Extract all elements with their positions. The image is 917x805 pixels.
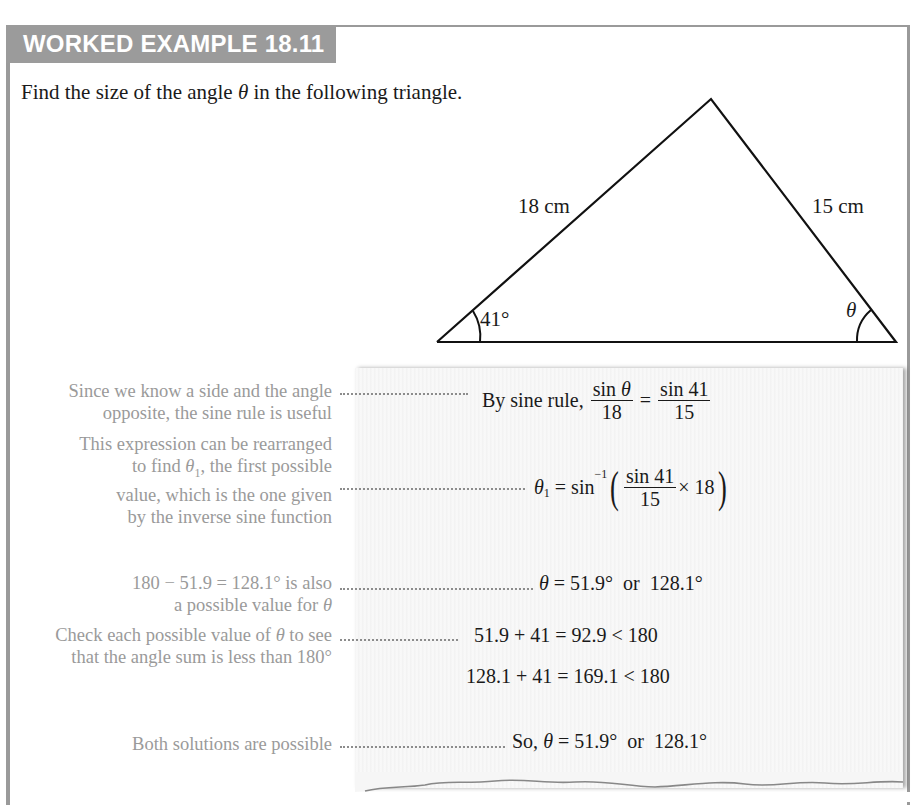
step5-note: Both solutions are possible [132, 733, 332, 755]
step3-leader [340, 586, 533, 590]
step3-note: 180 − 51.9 = 128.1° is also a possible v… [132, 572, 332, 616]
angle-right-label: θ [846, 298, 856, 323]
step5-math: So, θ = 51.9° or 128.1° [512, 730, 707, 753]
side-left-label: 18 cm [518, 194, 570, 219]
header-title: WORKED EXAMPLE 18.11 [23, 30, 324, 58]
step2-note: This expression can be rearranged to fin… [79, 433, 332, 528]
step2-leader [340, 486, 525, 490]
step2-math: θ1 = sin−1(sin 4115× 18) [534, 462, 729, 513]
step1-note: Since we know a side and the angle oppos… [68, 380, 332, 424]
step4-leader [340, 637, 458, 641]
step5-leader [340, 744, 505, 748]
step4-math-line2: 128.1 + 41 = 169.1 < 180 [466, 665, 670, 688]
step3-math: θ = 51.9° or 128.1° [539, 572, 703, 595]
step4-note: Check each possible value of θ to see th… [55, 624, 332, 668]
step4-math-line1: 51.9 + 41 = 92.9 < 180 [474, 624, 658, 647]
question-text: Find the size of the angle θ in the foll… [21, 80, 462, 105]
angle-left-label: 41° [480, 307, 509, 332]
step1-leader [340, 391, 468, 395]
worked-example-header: WORKED EXAMPLE 18.11 [6, 25, 336, 63]
torn-edge [355, 772, 910, 802]
step1-math: By sine rule, sin θ18 = sin 4115 [482, 378, 712, 423]
side-right-label: 15 cm [812, 194, 864, 219]
